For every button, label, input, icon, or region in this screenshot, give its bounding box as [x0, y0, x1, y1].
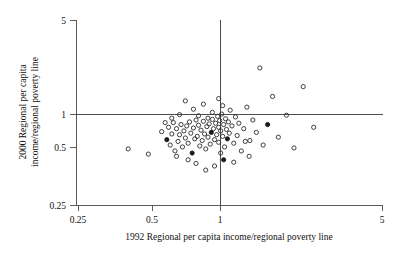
data-point	[182, 129, 186, 133]
data-point	[211, 127, 215, 131]
data-point	[216, 114, 220, 118]
data-point	[276, 135, 280, 139]
data-point	[204, 147, 208, 151]
data-points-layer	[126, 66, 316, 172]
data-point	[222, 122, 226, 126]
data-point	[227, 131, 231, 135]
data-point	[183, 136, 187, 140]
data-point	[219, 151, 223, 155]
data-point	[163, 120, 167, 124]
data-point	[190, 151, 194, 155]
data-point	[180, 145, 184, 149]
data-point	[198, 144, 202, 148]
data-point	[206, 135, 210, 139]
data-point	[224, 127, 228, 131]
data-point	[266, 122, 270, 126]
data-point	[212, 138, 216, 142]
y-tick-marks	[70, 20, 76, 205]
data-point	[179, 122, 183, 126]
data-point	[189, 131, 193, 135]
data-point	[243, 139, 247, 143]
data-point	[230, 124, 234, 128]
scatter-plot-figure: 5 1 0.5 0.25 0.25 0.5 1 5 1992 Regional …	[0, 0, 400, 269]
data-point	[222, 145, 226, 149]
data-point	[210, 117, 214, 121]
y-axis-title-line-2: income/regional poverty line	[30, 57, 40, 167]
data-point	[202, 132, 206, 136]
data-point	[186, 158, 190, 162]
y-axis-title-line-1: 2000 Regional per capita	[18, 64, 28, 160]
data-point	[146, 152, 150, 156]
data-point	[248, 138, 252, 142]
data-point	[168, 143, 172, 147]
data-point	[232, 141, 236, 145]
data-point	[170, 132, 174, 136]
data-point	[187, 120, 191, 124]
data-point	[270, 94, 274, 98]
data-point	[239, 149, 243, 153]
data-point	[312, 125, 316, 129]
data-point	[221, 134, 225, 138]
data-point	[170, 116, 174, 120]
data-point	[177, 133, 181, 137]
x-axis-title: 1992 Regional per capita income/regional…	[125, 232, 332, 242]
data-point	[228, 108, 232, 112]
data-point	[258, 66, 262, 70]
data-point	[215, 133, 219, 137]
data-point	[232, 160, 236, 164]
data-point	[301, 85, 305, 89]
data-point	[207, 122, 211, 126]
y-tick-label-0.5: 0.5	[54, 143, 66, 153]
data-point	[242, 127, 246, 131]
data-point	[222, 158, 226, 162]
data-point	[183, 99, 187, 103]
data-point	[226, 120, 230, 124]
data-point	[247, 154, 251, 158]
data-point	[212, 164, 216, 168]
data-point	[160, 130, 164, 134]
data-point	[225, 137, 229, 141]
data-point	[194, 118, 198, 122]
data-point	[219, 129, 223, 133]
data-point	[200, 138, 204, 142]
data-point	[177, 113, 181, 117]
data-point	[261, 143, 265, 147]
data-point	[165, 138, 169, 142]
x-tick-label-1: 1	[218, 215, 223, 225]
data-point	[213, 121, 217, 125]
data-point	[174, 154, 178, 158]
data-point	[205, 124, 209, 128]
data-point	[237, 121, 241, 125]
data-point	[251, 118, 255, 122]
x-tick-label-5: 5	[380, 215, 385, 225]
data-point	[193, 137, 197, 141]
data-point	[176, 139, 180, 143]
data-point	[195, 134, 199, 138]
data-point	[185, 124, 189, 128]
data-point	[206, 116, 210, 120]
data-point	[194, 161, 198, 165]
x-tick-marks	[78, 205, 382, 211]
data-point	[201, 102, 205, 106]
data-point	[208, 142, 212, 146]
y-tick-label-5: 5	[61, 16, 66, 26]
y-tick-label-0.25: 0.25	[49, 201, 66, 211]
plot-canvas: 5 1 0.5 0.25 0.25 0.5 1 5 1992 Regional …	[0, 0, 400, 269]
data-point	[201, 119, 205, 123]
y-tick-label-1: 1	[61, 110, 66, 120]
data-point	[204, 168, 208, 172]
data-point	[292, 146, 296, 150]
data-point	[186, 141, 190, 145]
data-point	[254, 130, 258, 134]
data-point	[126, 147, 130, 151]
data-point	[166, 125, 170, 129]
data-point	[196, 123, 200, 127]
data-point	[233, 115, 237, 119]
data-point	[171, 120, 175, 124]
data-point	[191, 107, 195, 111]
data-point	[235, 133, 239, 137]
data-point	[173, 149, 177, 153]
data-point	[191, 126, 195, 130]
data-point	[221, 104, 225, 108]
x-tick-label-0.5: 0.5	[146, 215, 158, 225]
